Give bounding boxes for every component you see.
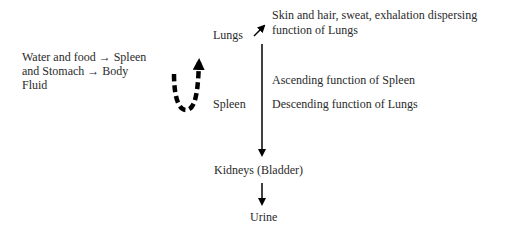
diagram-arrows [0, 0, 506, 238]
lungs-dispersing-arrow-icon [254, 26, 264, 36]
dashed-ascending-arrow-icon [174, 62, 199, 110]
